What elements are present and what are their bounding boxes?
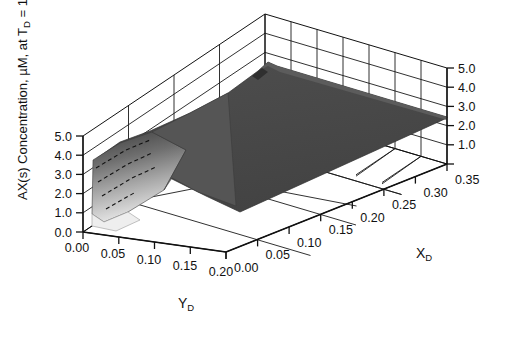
z-left-tick-0: 5.0 bbox=[55, 130, 72, 144]
x-tick-4: 0.20 bbox=[360, 211, 384, 225]
z-left-tick-5: 0.0 bbox=[55, 226, 72, 240]
x-tick-1: 0.05 bbox=[266, 248, 290, 262]
z-right-tick-2: 3.0 bbox=[458, 100, 475, 114]
x-tick-5: 0.25 bbox=[392, 198, 416, 212]
y-axis: 0.00 0.05 0.10 0.15 0.20 YD bbox=[65, 232, 233, 313]
z-axis-title-tail: = 10 bbox=[15, 0, 30, 21]
svg-text:YD: YD bbox=[178, 295, 194, 313]
y-tick-0: 0.00 bbox=[65, 241, 89, 255]
y-axis-title-sub: D bbox=[187, 302, 194, 313]
z-axis-left: 5.0 4.0 3.0 2.0 1.0 0.0 bbox=[55, 130, 83, 240]
z-right-tick-4: 1.0 bbox=[458, 138, 475, 152]
y-tick-2: 0.10 bbox=[137, 253, 161, 267]
svg-text:XD: XD bbox=[416, 245, 432, 263]
x-tick-7: 0.35 bbox=[455, 173, 479, 187]
z-axis-right: 5.0 4.0 3.0 2.0 1.0 bbox=[447, 62, 475, 165]
z-axis-title-main: AX(s) Concentration, µM, at T bbox=[15, 28, 30, 200]
z-right-tick-0: 5.0 bbox=[458, 62, 475, 76]
z-axis-title: AX(s) Concentration, µM, at TD = 10 bbox=[15, 0, 32, 200]
x-tick-6: 0.30 bbox=[423, 186, 447, 200]
x-tick-2: 0.10 bbox=[297, 236, 321, 250]
z-right-tick-1: 4.0 bbox=[458, 81, 475, 95]
y-tick-3: 0.15 bbox=[173, 259, 197, 273]
x-tick-3: 0.15 bbox=[329, 223, 353, 237]
y-tick-4: 0.20 bbox=[209, 265, 233, 279]
x-axis-title-sub: D bbox=[425, 252, 432, 263]
z-left-tick-1: 4.0 bbox=[55, 149, 72, 163]
z-left-tick-3: 2.0 bbox=[55, 187, 72, 201]
z-left-tick-2: 3.0 bbox=[55, 168, 72, 182]
y-tick-1: 0.05 bbox=[101, 247, 125, 261]
z-left-tick-4: 1.0 bbox=[55, 206, 72, 220]
surface-plot-figure: 5.0 4.0 3.0 2.0 1.0 0.0 AX(s) Concentrat… bbox=[0, 0, 507, 350]
x-tick-0: 0.00 bbox=[234, 261, 258, 275]
svg-text:AX(s) Concentration, µM, at TD: AX(s) Concentration, µM, at TD = 10 bbox=[15, 0, 32, 200]
z-right-tick-3: 2.0 bbox=[458, 119, 475, 133]
